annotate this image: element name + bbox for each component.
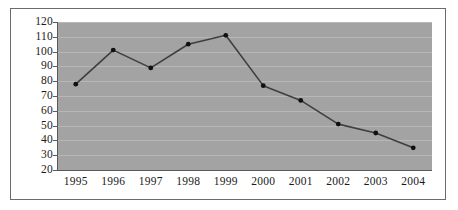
x-axis-line bbox=[57, 170, 432, 171]
x-axis-tick-label: 1995 bbox=[64, 175, 88, 187]
y-axis-tick-mark bbox=[53, 81, 57, 82]
data-point bbox=[186, 42, 191, 47]
data-point bbox=[261, 83, 266, 88]
x-axis-tick-label: 1999 bbox=[214, 175, 238, 187]
y-axis-tick-mark bbox=[53, 126, 57, 127]
y-axis-tick-label: 40 bbox=[27, 134, 53, 146]
x-axis-tick-label: 2000 bbox=[251, 175, 275, 187]
y-axis-tick-mark bbox=[53, 170, 57, 171]
data-point bbox=[73, 82, 78, 87]
y-axis-tick-label: 70 bbox=[27, 90, 53, 102]
x-axis-tick-label: 2002 bbox=[326, 175, 350, 187]
series-markers bbox=[73, 33, 415, 150]
chart-figure: 2030405060708090100110120 19951996199719… bbox=[0, 0, 458, 210]
y-axis-tick-mark bbox=[53, 22, 57, 23]
y-axis-line bbox=[57, 22, 58, 171]
y-axis-tick-mark bbox=[53, 155, 57, 156]
data-point bbox=[373, 131, 378, 136]
x-axis-tick-label: 1997 bbox=[139, 175, 163, 187]
data-point bbox=[411, 145, 416, 150]
plot-area bbox=[57, 22, 432, 170]
y-axis-tick-mark bbox=[53, 96, 57, 97]
y-axis-tick-label: 60 bbox=[27, 105, 53, 117]
y-axis-tick-label: 80 bbox=[27, 75, 53, 87]
y-axis-tick-label: 90 bbox=[27, 60, 53, 72]
y-axis-tick-label: 20 bbox=[27, 164, 53, 176]
y-axis-tick-label: 100 bbox=[27, 46, 53, 58]
x-axis-tick-labels: 1995199619971998199920002001200220032004 bbox=[0, 175, 458, 191]
x-axis-tick-label: 1996 bbox=[101, 175, 125, 187]
x-axis-tick-label: 2003 bbox=[364, 175, 388, 187]
y-axis-tick-label: 30 bbox=[27, 149, 53, 161]
data-point bbox=[298, 98, 303, 103]
data-point bbox=[336, 122, 341, 127]
x-axis-tick-label: 2004 bbox=[401, 175, 425, 187]
y-axis-tick-mark bbox=[53, 111, 57, 112]
y-axis-tick-mark bbox=[53, 66, 57, 67]
series-line-path bbox=[76, 35, 414, 147]
y-axis-tick-mark bbox=[53, 140, 57, 141]
data-point bbox=[111, 48, 116, 53]
y-axis-tick-mark bbox=[53, 52, 57, 53]
y-axis-tick-mark bbox=[53, 37, 57, 38]
x-axis-tick-label: 2001 bbox=[289, 175, 313, 187]
y-axis-tick-label: 120 bbox=[27, 16, 53, 28]
data-point bbox=[148, 65, 153, 70]
y-axis-tick-labels: 2030405060708090100110120 bbox=[25, 22, 53, 170]
y-axis-tick-label: 110 bbox=[27, 31, 53, 43]
line-series bbox=[57, 22, 432, 170]
y-axis-tick-label: 50 bbox=[27, 120, 53, 132]
x-axis-tick-label: 1998 bbox=[176, 175, 200, 187]
data-point bbox=[223, 33, 228, 38]
